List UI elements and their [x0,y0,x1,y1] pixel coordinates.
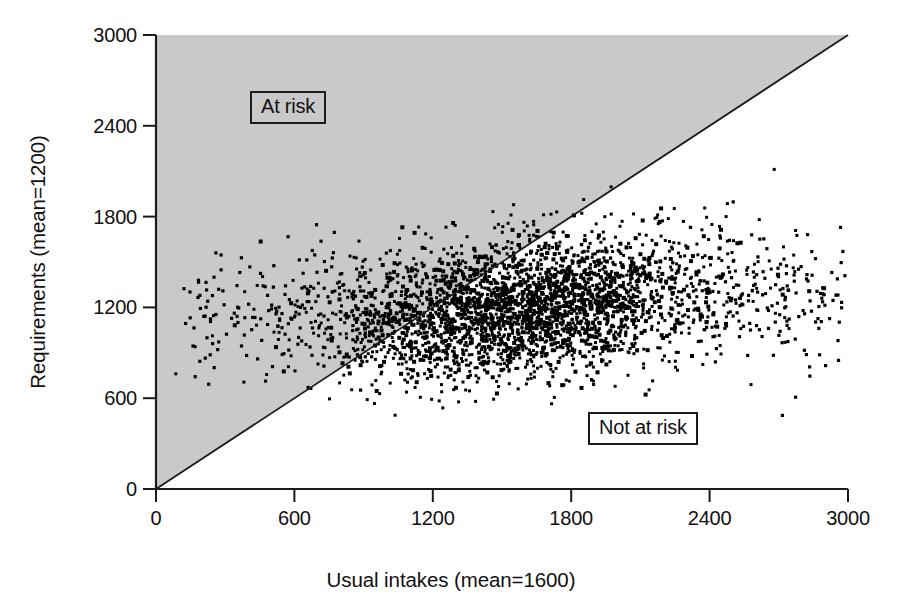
scatter-point [732,200,735,203]
scatter-point [524,366,527,369]
scatter-point [648,312,651,315]
scatter-point [418,351,421,354]
scatter-point [415,304,418,307]
scatter-point [489,281,493,285]
scatter-point [608,360,611,363]
scatter-point [329,333,332,336]
scatter-point [660,333,664,337]
scatter-point [605,337,608,340]
scatter-point [501,231,504,234]
scatter-point [452,359,455,362]
scatter-point [327,318,330,321]
scatter-point [380,364,383,367]
scatter-point [340,311,343,314]
scatter-point [657,222,660,225]
scatter-point [404,293,407,296]
y-tick-label: 3000 [93,24,137,47]
y-tick-label: 2400 [93,114,137,137]
scatter-point [601,301,604,304]
scatter-point [406,313,409,316]
scatter-point [580,302,583,305]
scatter-point [414,331,417,334]
scatter-point [742,325,745,328]
scatter-point [488,275,491,278]
scatter-point [600,296,603,299]
scatter-point [459,282,462,285]
scatter-point [722,304,725,307]
scatter-point [385,252,388,255]
scatter-point [721,276,724,279]
scatter-point [491,299,494,302]
scatter-point [529,310,532,313]
scatter-point [597,307,600,310]
scatter-point [808,365,811,368]
scatter-point [563,309,566,312]
scatter-point [570,326,573,329]
scatter-point [495,286,498,289]
scatter-point [430,298,433,301]
scatter-point [487,345,491,349]
scatter-point [498,320,501,323]
scatter-point [491,210,494,213]
scatter-point [648,256,652,260]
scatter-point [569,344,572,347]
scatter-point [396,253,399,256]
scatter-point [426,377,429,380]
scatter-point [539,272,542,275]
scatter-point [507,277,510,280]
scatter-point [650,328,653,331]
scatter-point [673,286,676,289]
scatter-point [580,274,583,277]
scatter-point [338,381,341,384]
scatter-point [196,296,199,299]
scatter-point [387,351,390,354]
scatter-point [622,254,625,257]
scatter-point [386,302,389,305]
scatter-point [531,322,534,325]
scatter-point [753,263,756,266]
scatter-point [529,263,532,266]
scatter-point [389,312,392,315]
scatter-point [220,253,223,256]
scatter-point [523,319,526,322]
scatter-point [489,326,492,329]
scatter-point [451,272,454,275]
scatter-point [394,414,397,417]
scatter-point [633,295,636,298]
scatter-point [383,345,386,348]
scatter-point [361,360,364,363]
scatter-point [761,293,764,296]
scatter-point [438,260,441,263]
scatter-point [235,284,238,287]
scatter-point [424,232,427,235]
scatter-point [463,344,466,347]
scatter-point [551,266,554,269]
scatter-point [619,225,622,228]
scatter-point [598,282,601,285]
scatter-point [671,247,674,250]
scatter-point [659,347,662,350]
scatter-point [755,308,758,311]
scatter-point [440,321,443,324]
scatter-point [430,321,433,324]
scatter-point [732,260,735,263]
scatter-point [529,290,532,293]
scatter-point [480,325,483,328]
scatter-point [444,274,448,278]
scatter-point [614,331,617,334]
scatter-point [476,312,480,316]
scatter-point [605,312,608,315]
scatter-point [640,316,643,319]
scatter-point [782,245,785,248]
x-tick-label: 1800 [549,507,593,530]
scatter-point [587,334,591,338]
scatter-point [641,313,644,316]
scatter-point [447,343,450,346]
scatter-point [457,259,460,262]
scatter-point [477,377,480,380]
scatter-point [397,363,400,366]
scatter-point [526,363,529,366]
scatter-point [541,279,544,282]
scatter-point [553,341,557,345]
scatter-point [682,288,686,292]
